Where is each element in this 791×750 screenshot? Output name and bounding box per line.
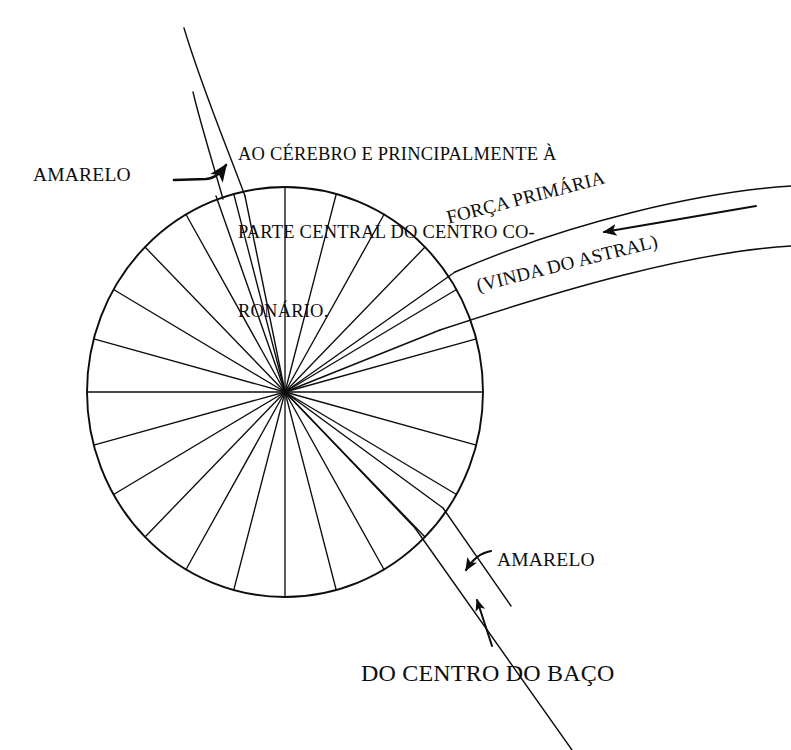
amarelo-top-pointer xyxy=(174,165,226,180)
forca-primaria-flow-arrow xyxy=(604,206,756,232)
wheel-spoke xyxy=(145,392,285,537)
label-do-centro-do-baco: DO CENTRO DO BAÇO xyxy=(361,658,614,689)
amarelo-bottom-pointer xyxy=(466,551,491,570)
wheel-spoke xyxy=(285,392,456,495)
brain-note-line-3: RONÁRIO. xyxy=(238,298,557,324)
wheel-spoke xyxy=(285,392,476,445)
brain-note-line-1: AO CÉREBRO E PRINCIPALMENTE À xyxy=(238,141,557,167)
label-amarelo-bottom: AMARELO xyxy=(497,547,595,572)
diagram-canvas: AMARELO AO CÉREBRO E PRINCIPALMENTE À PA… xyxy=(0,0,791,750)
wheel-spoke xyxy=(285,392,336,590)
baco-flow-arrow xyxy=(477,600,492,646)
label-brain-destination-note: AO CÉREBRO E PRINCIPALMENTE À PARTE CENT… xyxy=(238,88,557,377)
label-amarelo-top: AMARELO xyxy=(33,162,131,187)
wheel-spoke xyxy=(234,392,285,590)
wheel-spoke xyxy=(94,392,285,445)
brain-note-line-2: PARTE CENTRAL DO CENTRO CO- xyxy=(238,219,557,245)
wheel-spoke xyxy=(114,392,285,495)
wheel-spoke xyxy=(186,392,285,570)
